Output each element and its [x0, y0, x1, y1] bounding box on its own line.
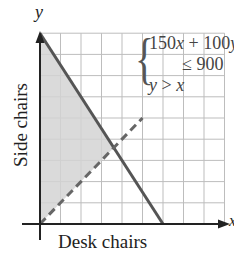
y-axis-label: Side chairs — [10, 70, 32, 180]
inequality-1-bound: ≤ 900 — [182, 54, 223, 75]
var-y: y — [230, 33, 234, 53]
x-axis-label: Desk chairs — [58, 231, 147, 253]
coef-150: 150 — [149, 33, 176, 53]
y-variable-label: y — [35, 2, 43, 23]
inequality-2: y > x — [149, 75, 184, 96]
greater-than: > — [157, 75, 176, 95]
var-x: x — [176, 33, 184, 53]
var-x: x — [176, 75, 184, 95]
var-y: y — [149, 75, 157, 95]
inequality-1: 150x + 100y — [149, 33, 234, 54]
coef-100: + 100 — [184, 33, 230, 53]
x-variable-label: x — [229, 212, 234, 230]
